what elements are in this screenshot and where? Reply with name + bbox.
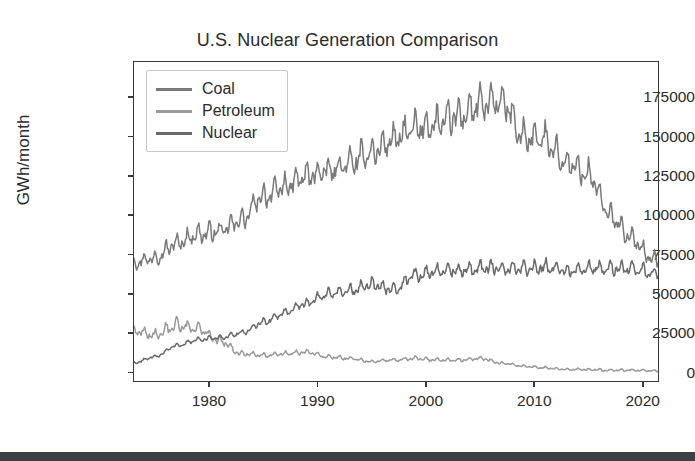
y-axis-label: GWh/month [14, 80, 34, 240]
x-tick-label: 2020 [625, 392, 659, 410]
x-tick-mark [425, 382, 427, 387]
legend-item-coal[interactable]: Coal [156, 78, 275, 100]
x-tick-mark [642, 382, 644, 387]
bottom-edge-bar [0, 452, 695, 461]
legend-swatch-icon [156, 110, 192, 113]
legend-label: Coal [202, 81, 235, 97]
legend-item-petroleum[interactable]: Petroleum [156, 100, 275, 122]
x-tick-mark [533, 382, 535, 387]
x-tick-mark [317, 382, 319, 387]
x-tick-mark [208, 382, 210, 387]
figure-canvas: U.S. Nuclear Generation Comparison GWh/m… [0, 0, 695, 452]
legend: CoalPetroleumNuclear [146, 70, 288, 152]
x-tick-label: 2000 [409, 392, 443, 410]
x-tick-label: 1980 [192, 392, 226, 410]
legend-item-nuclear[interactable]: Nuclear [156, 122, 275, 144]
legend-swatch-icon [156, 88, 192, 91]
x-tick-label: 1990 [300, 392, 334, 410]
legend-swatch-icon [156, 132, 192, 135]
legend-label: Nuclear [202, 125, 257, 141]
x-tick-label: 2010 [517, 392, 551, 410]
legend-label: Petroleum [202, 103, 275, 119]
chart-title: U.S. Nuclear Generation Comparison [0, 30, 695, 51]
